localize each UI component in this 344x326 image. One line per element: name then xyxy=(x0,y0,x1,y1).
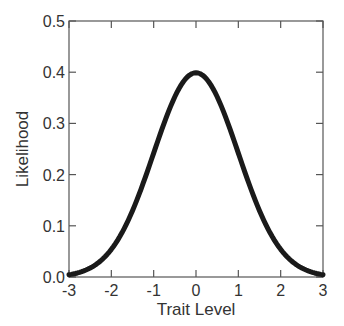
y-tick-label: 0.4 xyxy=(43,64,65,81)
x-tick-label: -1 xyxy=(147,282,161,299)
likelihood-chart: -3-2-10123 0.00.10.20.30.40.5 Trait Leve… xyxy=(0,0,344,326)
x-tick-label: 3 xyxy=(319,282,328,299)
x-tick-labels: -3-2-10123 xyxy=(62,282,328,299)
x-tick-label: -2 xyxy=(104,282,118,299)
y-tick-label: 0.5 xyxy=(43,13,65,30)
likelihood-curve xyxy=(69,73,323,275)
y-tick-labels: 0.00.10.20.30.40.5 xyxy=(43,13,65,286)
x-tick-label: 0 xyxy=(192,282,201,299)
y-axis-label: Likelihood xyxy=(13,111,32,188)
y-tick-label: 0.0 xyxy=(43,269,65,286)
axis-ticks xyxy=(69,21,323,277)
y-tick-label: 0.1 xyxy=(43,218,65,235)
plot-frame xyxy=(69,21,323,277)
y-tick-label: 0.3 xyxy=(43,115,65,132)
y-tick-label: 0.2 xyxy=(43,167,65,184)
x-tick-label: 2 xyxy=(276,282,285,299)
x-tick-label: 1 xyxy=(234,282,243,299)
x-axis-label: Trait Level xyxy=(157,300,236,319)
